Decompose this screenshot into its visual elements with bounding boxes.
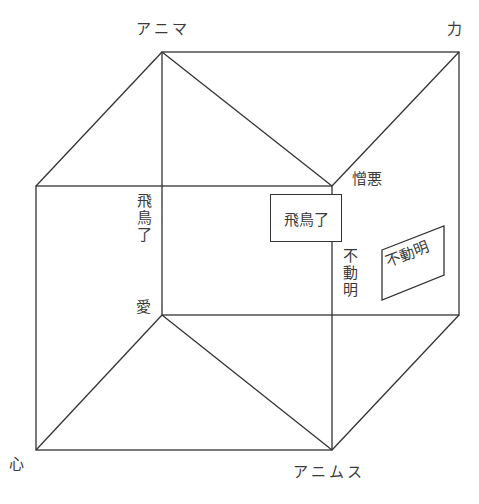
label-power: 力 bbox=[447, 22, 462, 37]
edge-bottom-left bbox=[36, 315, 162, 450]
label-hatred: 憎悪 bbox=[352, 172, 382, 187]
diagonal-love-animus bbox=[162, 315, 332, 450]
label-anima: アニマ bbox=[136, 22, 190, 37]
asuka-box-label: 飛鳥了 bbox=[284, 208, 329, 229]
label-asuka-vertical: 飛鳥了 bbox=[135, 193, 150, 244]
edge-top-right bbox=[332, 52, 459, 186]
label-animus: アニムス bbox=[293, 465, 365, 480]
label-heart: 心 bbox=[9, 457, 24, 472]
asuka-box: 飛鳥了 bbox=[270, 194, 342, 242]
diagonal-anima-hatred bbox=[162, 52, 332, 186]
edge-top-left bbox=[36, 52, 162, 186]
label-fudo-vertical: 不動明 bbox=[341, 248, 356, 299]
label-love: 愛 bbox=[136, 300, 151, 315]
edge-bottom-right bbox=[332, 315, 459, 450]
